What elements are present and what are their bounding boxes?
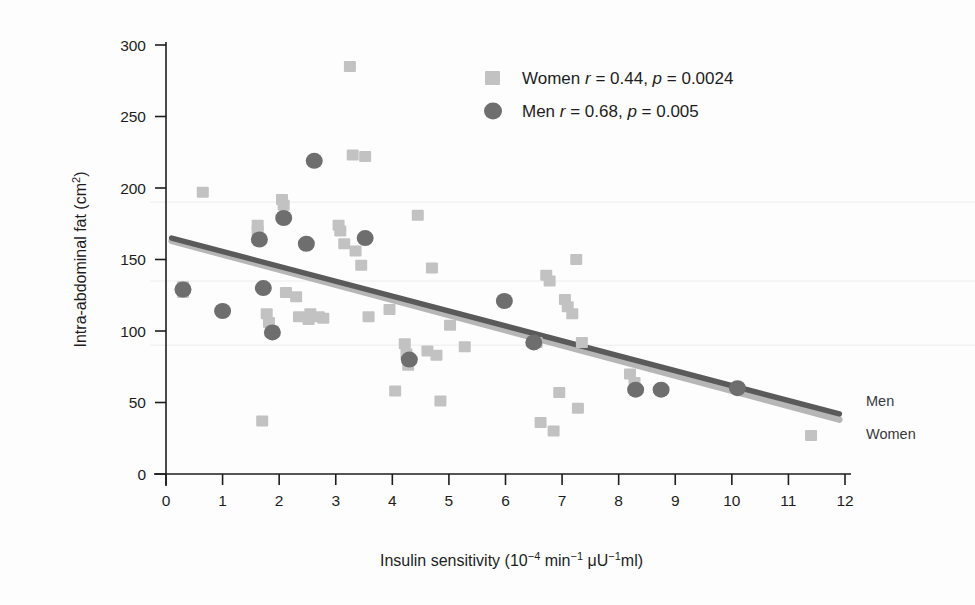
x-tick-label-11: 11 bbox=[780, 492, 796, 509]
data-point-men-13 bbox=[653, 382, 670, 398]
x-tick-label-9: 9 bbox=[671, 492, 680, 509]
data-point-women-36 bbox=[434, 396, 446, 407]
series-label-men: Men bbox=[866, 393, 894, 409]
y-tick-label-150: 150 bbox=[120, 251, 146, 268]
data-point-women-5 bbox=[256, 416, 268, 427]
legend-entry-men: Men r = 0.68, p = 0.005 bbox=[522, 102, 699, 121]
data-point-women-25 bbox=[359, 151, 371, 162]
data-point-men-11 bbox=[525, 334, 542, 350]
data-point-women-34 bbox=[426, 263, 438, 274]
data-point-women-21 bbox=[344, 61, 356, 72]
x-tick-label-5: 5 bbox=[445, 492, 454, 509]
data-point-men-1 bbox=[214, 303, 231, 319]
legend-entry-women: Women r = 0.44, p = 0.0024 bbox=[522, 69, 733, 88]
chart-canvas: 0501001502002503000123456789101112Intra-… bbox=[0, 0, 975, 605]
data-point-men-10 bbox=[496, 293, 513, 309]
data-point-women-17 bbox=[317, 313, 329, 324]
y-tick-label-0: 0 bbox=[137, 466, 146, 483]
data-point-women-35 bbox=[430, 350, 442, 361]
data-point-women-40 bbox=[535, 417, 547, 428]
x-tick-label-2: 2 bbox=[275, 492, 284, 509]
legend-marker-men bbox=[484, 103, 502, 120]
data-point-men-3 bbox=[255, 280, 272, 296]
data-point-women-32 bbox=[412, 210, 424, 221]
x-tick-label-4: 4 bbox=[388, 492, 397, 509]
data-point-men-8 bbox=[357, 230, 374, 246]
x-tick-label-8: 8 bbox=[614, 492, 623, 509]
x-axis-title: Insulin sensitivity (10−4 min−1 μU−1ml) bbox=[380, 550, 643, 569]
scatter-plot-figure: 0501001502002503000123456789101112Intra-… bbox=[0, 0, 975, 605]
data-point-women-28 bbox=[389, 386, 401, 397]
data-point-women-24 bbox=[355, 260, 367, 271]
x-tick-label-1: 1 bbox=[218, 492, 227, 509]
data-point-men-12 bbox=[627, 382, 644, 398]
x-tick-label-12: 12 bbox=[836, 492, 853, 509]
series-label-women: Women bbox=[866, 426, 916, 442]
data-point-women-2 bbox=[197, 187, 209, 198]
y-tick-label-50: 50 bbox=[129, 394, 147, 411]
data-point-women-43 bbox=[548, 426, 560, 437]
data-point-men-5 bbox=[275, 210, 292, 226]
data-point-women-47 bbox=[566, 308, 578, 319]
data-point-women-50 bbox=[576, 337, 588, 348]
y-tick-label-300: 300 bbox=[120, 37, 146, 54]
legend-marker-women bbox=[485, 71, 500, 85]
x-tick-label-10: 10 bbox=[723, 492, 741, 509]
x-tick-label-7: 7 bbox=[558, 492, 567, 509]
data-point-men-14 bbox=[729, 380, 746, 396]
data-point-women-22 bbox=[347, 150, 359, 161]
data-point-men-4 bbox=[264, 324, 281, 340]
x-tick-label-3: 3 bbox=[331, 492, 340, 509]
data-point-women-12 bbox=[290, 291, 302, 302]
data-point-women-29 bbox=[399, 338, 411, 349]
data-point-women-37 bbox=[444, 320, 456, 331]
data-point-women-23 bbox=[350, 245, 362, 256]
data-point-women-26 bbox=[363, 311, 375, 322]
y-tick-label-250: 250 bbox=[120, 108, 146, 125]
data-point-men-7 bbox=[306, 153, 323, 169]
data-point-women-19 bbox=[334, 225, 346, 236]
y-tick-label-100: 100 bbox=[120, 323, 146, 340]
data-point-women-48 bbox=[570, 254, 582, 265]
data-point-women-53 bbox=[805, 430, 817, 441]
data-point-women-27 bbox=[384, 304, 396, 315]
data-point-women-42 bbox=[544, 275, 556, 286]
data-point-men-9 bbox=[401, 352, 418, 368]
data-point-women-10 bbox=[278, 200, 290, 211]
data-point-women-20 bbox=[338, 238, 350, 249]
data-point-women-38 bbox=[459, 341, 471, 352]
data-point-women-49 bbox=[572, 403, 584, 414]
data-point-men-0 bbox=[174, 282, 191, 298]
y-axis-title: Intra-abdominal fat (cm2) bbox=[70, 172, 89, 348]
data-point-men-6 bbox=[298, 236, 315, 252]
data-point-men-2 bbox=[251, 231, 268, 247]
y-tick-label-200: 200 bbox=[120, 180, 146, 197]
x-tick-label-0: 0 bbox=[162, 492, 171, 509]
x-tick-label-6: 6 bbox=[501, 492, 510, 509]
data-point-women-44 bbox=[553, 387, 565, 398]
